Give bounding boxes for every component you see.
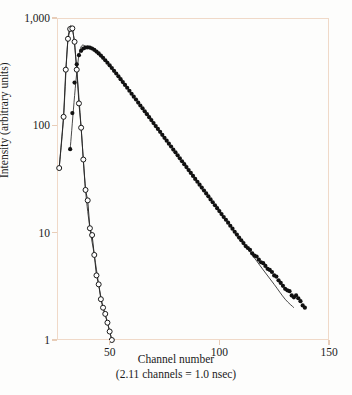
x-tick-mark [219, 340, 220, 345]
figure-container: 1101001,000 50100150 Intensity (arbitrar… [0, 0, 352, 395]
series-line-instrument-response [59, 28, 112, 340]
data-point-sample-decay [274, 274, 278, 278]
data-point-instrument-response [92, 252, 97, 257]
x-axis-caption: Channel number (2.11 channels = 1.0 nsec… [0, 352, 352, 382]
plot-area [57, 18, 329, 340]
data-point-instrument-response [72, 39, 77, 44]
data-point-sample-decay [72, 81, 76, 85]
data-point-instrument-response [96, 282, 101, 287]
data-point-sample-decay [68, 147, 72, 151]
y-axis-label: Intensity (arbitrary units) [0, 62, 10, 178]
data-point-instrument-response [79, 125, 84, 130]
data-point-sample-decay [248, 248, 252, 252]
data-point-instrument-response [76, 101, 81, 106]
data-point-instrument-response [83, 187, 88, 192]
x-axis-label: Channel number [0, 352, 352, 367]
data-point-instrument-response [94, 273, 99, 278]
y-tick-mark [52, 125, 57, 126]
data-plot-svg [57, 18, 329, 340]
data-point-instrument-response [70, 26, 75, 31]
y-tick-label: 10 [0, 227, 50, 239]
y-tick-mark [52, 339, 57, 340]
data-point-instrument-response [107, 329, 112, 334]
y-tick-mark [52, 232, 57, 233]
data-point-sample-decay [298, 299, 302, 303]
y-tick-label: 1,000 [0, 12, 50, 24]
data-point-sample-decay [287, 289, 291, 293]
data-point-instrument-response [90, 233, 95, 238]
fit-curve-instrument-response-fit [59, 26, 112, 340]
data-point-sample-decay [77, 53, 81, 57]
data-point-sample-decay [303, 306, 307, 310]
data-point-instrument-response [105, 320, 110, 325]
x-axis-note: (2.11 channels = 1.0 nsec) [0, 367, 352, 382]
data-point-instrument-response [74, 67, 79, 72]
y-tick-label: 1 [0, 334, 50, 346]
data-point-sample-decay [75, 62, 79, 66]
x-tick-mark [328, 340, 329, 345]
fit-curve-sample-decay-fit [70, 45, 294, 308]
data-point-instrument-response [61, 114, 66, 119]
data-point-instrument-response [57, 166, 62, 171]
data-point-instrument-response [63, 67, 68, 72]
data-point-sample-decay [70, 111, 74, 115]
data-point-instrument-response [87, 226, 92, 231]
data-point-instrument-response [103, 311, 108, 316]
data-point-instrument-response [65, 36, 70, 41]
data-point-instrument-response [101, 305, 106, 310]
x-tick-mark [109, 340, 110, 345]
data-point-instrument-response [98, 297, 103, 302]
data-point-instrument-response [81, 157, 86, 162]
data-point-instrument-response [85, 198, 90, 203]
y-tick-mark [52, 17, 57, 18]
